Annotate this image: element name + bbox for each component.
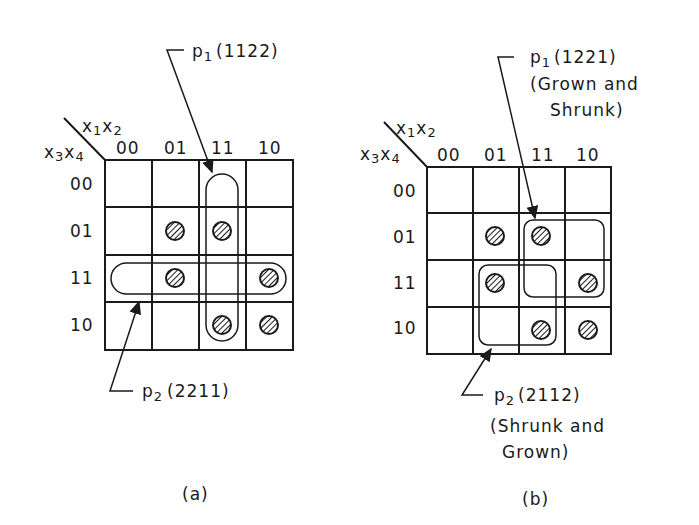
p2-label-a: p2(2211) [142,381,230,404]
row-header-b-11: 11 [393,273,417,293]
p2-note-line1-b: (Shrunk and [490,416,605,436]
kmap-a: x1x2 x3x4 00 01 11 10 00 01 11 10 [44,41,293,504]
axis-top-label-b: x1x2 [396,118,437,140]
row-header-b-01: 01 [393,227,417,247]
col-header-b-01: 01 [484,145,508,165]
col-header-b-11: 11 [531,145,555,165]
row-header-b-10: 10 [393,318,417,338]
p1-note-line1-b: (Grown and [530,74,639,94]
p2-leader-a [110,302,139,391]
kmap-b: x1x2 x3x4 00 01 11 10 00 01 11 10 [360,47,639,509]
row-header-b-00: 00 [393,181,417,201]
caption-a: (a) [182,484,209,504]
col-header-b-10: 10 [576,145,600,165]
axis-top-label-a: x1x2 [82,116,123,138]
row-header-a-00: 00 [70,174,94,194]
axis-left-label-b: x3x4 [360,144,401,166]
col-header-a-00: 00 [116,138,140,158]
row-header-a-11: 11 [70,268,94,288]
row-header-a-10: 10 [70,315,94,335]
col-header-b-00: 00 [437,145,461,165]
minterm-dots-a [166,222,278,334]
col-header-a-11: 11 [211,138,235,158]
karnaugh-figure: x1x2 x3x4 00 01 11 10 00 01 11 10 [0,0,699,525]
p1-label-a: p1(1122) [192,41,279,64]
p2-leader-b [462,349,491,395]
minterm-dots-b [486,227,597,339]
p2-label-b: p2(2112) [494,385,581,408]
axis-left-label-a: x3x4 [44,142,85,164]
row-header-a-01: 01 [70,221,94,241]
col-header-a-01: 01 [164,138,188,158]
caption-b: (b) [522,489,549,509]
p2-note-line2-b: Grown) [502,442,570,462]
p1-note-line2-b: Shrunk) [550,100,624,120]
p1-label-b: p1(1221) [530,47,617,70]
col-header-a-10: 10 [258,138,282,158]
